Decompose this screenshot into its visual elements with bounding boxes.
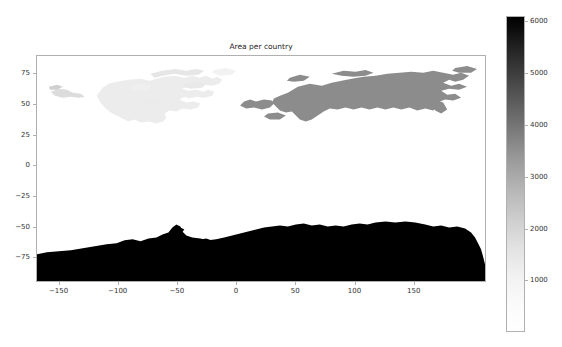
xtick-mark (118, 282, 119, 285)
colorbar-tick-mark (525, 229, 528, 230)
xtick-mark (177, 282, 178, 285)
colorbar-tick-label: 3000 (530, 173, 548, 181)
ytick-label: −75 (12, 253, 30, 261)
colorbar-gradient (506, 16, 525, 332)
choropleth-map (37, 56, 485, 281)
page-title: Area per country (36, 41, 486, 52)
xtick-mark (59, 282, 60, 285)
colorbar-tick-mark (525, 280, 528, 281)
map-axes[interactable] (36, 55, 486, 282)
colorbar-tick-mark (525, 21, 528, 22)
ytick-label: 0 (12, 161, 30, 169)
colorbar-tick-label: 4000 (530, 121, 548, 129)
region-antarctica (37, 222, 485, 281)
xtick-label: −50 (170, 287, 185, 295)
ytick-mark (33, 73, 36, 74)
colorbar[interactable]: 1000 2000 3000 4000 5000 6000 (506, 16, 525, 332)
xtick-label: −150 (49, 287, 68, 295)
colorbar-tick-label: 1000 (530, 276, 548, 284)
xtick-mark (236, 282, 237, 285)
ytick-mark (33, 165, 36, 166)
ytick-mark (33, 104, 36, 105)
ytick-label: 75 (12, 69, 30, 77)
matplotlib-figure-canvas: Area per country (0, 0, 562, 347)
colorbar-tick-label: 6000 (530, 17, 548, 25)
ytick-mark (33, 196, 36, 197)
region-canada (97, 68, 236, 124)
colorbar-tick-mark (525, 125, 528, 126)
colorbar-tick-label: 5000 (530, 69, 548, 77)
ytick-mark (33, 227, 36, 228)
axes-frame (36, 55, 486, 282)
ytick-mark (33, 257, 36, 258)
xtick-label: 0 (234, 287, 238, 295)
region-russia (240, 66, 477, 122)
xtick-mark (414, 282, 415, 285)
xtick-mark (295, 282, 296, 285)
ytick-label: 50 (12, 100, 30, 108)
colorbar-tick-mark (525, 177, 528, 178)
xtick-label: 150 (407, 287, 420, 295)
xtick-label: 100 (348, 287, 361, 295)
region-alaska-aleutians (49, 85, 85, 98)
ytick-label: 25 (12, 131, 30, 139)
xtick-label: 50 (291, 287, 300, 295)
ytick-label: −50 (12, 223, 30, 231)
colorbar-tick-mark (525, 73, 528, 74)
colorbar-tick-label: 2000 (530, 225, 548, 233)
ytick-mark (33, 135, 36, 136)
xtick-label: −100 (108, 287, 127, 295)
ytick-label: −25 (12, 192, 30, 200)
xtick-mark (355, 282, 356, 285)
